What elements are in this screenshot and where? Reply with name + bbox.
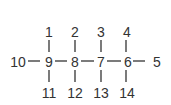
label-12: 12 [67,85,83,101]
label-5: 5 [153,54,161,70]
label-6: 6 [124,54,132,70]
label-9: 9 [45,54,53,70]
label-1: 1 [45,24,53,40]
label-10: 10 [10,54,26,70]
label-3: 3 [97,24,105,40]
label-2: 2 [71,24,79,40]
label-11: 11 [42,85,57,101]
label-8: 8 [71,54,79,70]
label-14: 14 [119,85,135,101]
label-4: 4 [123,24,131,40]
label-7: 7 [97,54,105,70]
numbering-diagram: 1 2 3 4 10 9 8 7 6 5 11 12 13 14 [0,0,171,105]
label-13: 13 [93,85,109,101]
